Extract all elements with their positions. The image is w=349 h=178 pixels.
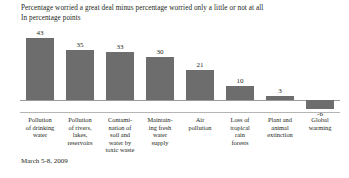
category-label: Pollutionof rivers,lakes,reservoirs [60, 116, 100, 154]
bar-value-label: 30 [157, 48, 164, 56]
category-label: Globalwarming [300, 116, 340, 154]
category-label: Airpollution [180, 116, 220, 154]
bar-slot: 10 [220, 33, 260, 113]
category-label-line: tropical [221, 124, 259, 132]
bar[interactable] [26, 38, 54, 100]
plot-area: 4335333021103-6 [20, 33, 340, 113]
bar-slot: 35 [60, 33, 100, 113]
category-label: Maintain-ing freshwatersupply [140, 116, 180, 154]
bar-series: 4335333021103-6 [20, 33, 340, 113]
bar[interactable] [226, 86, 254, 100]
category-label-line: Maintain- [141, 116, 179, 124]
bar[interactable] [266, 96, 294, 100]
category-label: Pollutionof drinkingwater [20, 116, 60, 154]
category-label-line: lakes, [61, 131, 99, 139]
bar-value-label: 10 [237, 77, 244, 85]
bar-slot: 3 [260, 33, 300, 113]
bar[interactable] [106, 52, 134, 100]
category-label-line: Contami- [101, 116, 139, 124]
category-label: Loss oftropicalrainforests [220, 116, 260, 154]
category-label-line: toxic waste [101, 146, 139, 154]
chart-title-line-1: Percentage worried a great deal minus pe… [21, 3, 341, 13]
category-label: Plant andanimalextinction [260, 116, 300, 154]
category-label-line: Plant and [261, 116, 299, 124]
category-label-line: Global [301, 116, 339, 124]
category-label-line: water by [101, 139, 139, 147]
category-label-line: animal [261, 124, 299, 132]
bar-slot: 43 [20, 33, 60, 113]
bar-slot: -6 [300, 33, 340, 113]
bar-value-label: 35 [77, 41, 84, 49]
category-label-line: Pollution [21, 116, 59, 124]
bar-value-label: 33 [117, 43, 124, 51]
bar[interactable] [146, 57, 174, 100]
category-label-line: ing fresh [141, 124, 179, 132]
category-label-line: water [141, 131, 179, 139]
chart-subtitle-line: In percentage points [21, 13, 341, 23]
bar[interactable] [306, 100, 334, 109]
category-label-line: supply [141, 139, 179, 147]
category-label-line: water [21, 131, 59, 139]
bar-chart: 4335333021103-6 [20, 33, 340, 113]
category-label-line: Pollution [61, 116, 99, 124]
category-label-line: rain [221, 131, 259, 139]
category-label: Contami-nation ofsoil andwater bytoxic w… [100, 116, 140, 154]
bar[interactable] [66, 50, 94, 100]
category-label-line: reservoirs [61, 139, 99, 147]
category-label-line: soil and [101, 131, 139, 139]
category-label-line: extinction [261, 131, 299, 139]
bar-value-label: 3 [278, 87, 282, 95]
category-label-line: Air [181, 116, 219, 124]
bar-value-label: 21 [197, 61, 204, 69]
category-label-line: of rivers, [61, 124, 99, 132]
category-label-line: Loss of [221, 116, 259, 124]
chart-title-block: Percentage worried a great deal minus pe… [21, 3, 341, 23]
category-label-line: pollution [181, 124, 219, 132]
category-axis-line [20, 112, 340, 113]
bar-slot: 21 [180, 33, 220, 113]
category-labels: Pollutionof drinkingwaterPollutionof riv… [20, 116, 340, 154]
bar-slot: 30 [140, 33, 180, 113]
bar[interactable] [186, 70, 214, 100]
bar-value-label: 43 [37, 29, 44, 37]
category-label-line: forests [221, 139, 259, 147]
category-label-line: of drinking [21, 124, 59, 132]
category-label-line: warming [301, 124, 339, 132]
bar-slot: 33 [100, 33, 140, 113]
category-label-line: nation of [101, 124, 139, 132]
survey-date: March 5-8, 2009 [21, 157, 68, 166]
